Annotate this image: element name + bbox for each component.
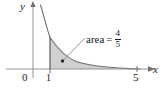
x-axis-label: x <box>153 64 158 75</box>
annotation-leader-line <box>64 38 86 60</box>
y-axis-label: y <box>20 1 25 12</box>
area-annotation-fraction: 4 5 <box>115 29 122 50</box>
math-figure: y x 0 1 5 area = 4 5 <box>0 0 166 91</box>
origin-tick-label: 0 <box>22 72 28 83</box>
area-annotation-word: area <box>86 33 104 45</box>
area-annotation-equals: = <box>106 33 112 45</box>
fraction-numerator: 4 <box>115 29 122 38</box>
x-tick-label-1: 1 <box>46 73 51 83</box>
y-axis-arrowhead <box>30 1 35 7</box>
fraction-denominator: 5 <box>115 40 122 49</box>
annotation-target-dot <box>61 59 64 62</box>
x-tick-label-5: 5 <box>133 72 139 83</box>
area-annotation: area = 4 5 <box>86 29 121 50</box>
